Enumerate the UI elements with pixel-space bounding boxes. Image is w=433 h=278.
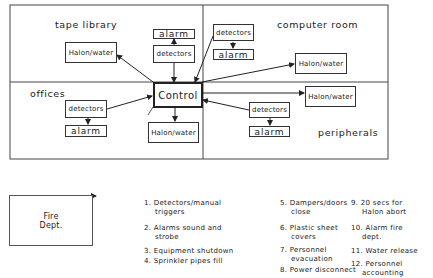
fire-dept-line1: Fire <box>43 212 58 221</box>
legend-item-4: 4. Sprinkler pipes fill <box>144 257 223 266</box>
computer-room-halon-water-box: Halon/water <box>295 53 347 74</box>
zone-label-offices: offices <box>30 88 65 99</box>
control-halon-water-box: Halon/water <box>148 122 199 143</box>
legend-item-1: 1. Detectors/manualtriggers <box>144 199 221 217</box>
offices-alarm-box: alarm <box>65 125 107 137</box>
fire-dept-line2: Dept. <box>40 221 63 230</box>
legend-item-8: 8. Power disconnect <box>280 266 356 275</box>
zone-label-peripherals: peripherals <box>318 127 378 138</box>
center-alarm-box: alarm <box>153 29 195 39</box>
legend-item-12: 12. Personnelaccounting <box>351 260 404 278</box>
peripherals-alarm-box: alarm <box>249 126 290 137</box>
legend-item-7: 7. Personnelevacuation <box>280 246 333 264</box>
tape-library-halon-water-box: Halon/water <box>65 42 117 63</box>
peripherals-detectors-box: detectors <box>249 102 290 118</box>
fire-dept-box: Fire Dept. <box>9 195 93 246</box>
legend-item-10: 10. Alarm firedept. <box>351 224 403 242</box>
peripherals-halon-water-box: Halon/water <box>305 86 356 107</box>
zone-label-tape-library: tape library <box>55 19 117 30</box>
legend-item-5: 5. Dampers/doorsclose <box>280 199 347 217</box>
center-detectors-box: detectors <box>153 45 195 63</box>
legend-item-6: 6. Plastic sheetcovers <box>280 224 338 242</box>
legend-item-11: 11. Water release <box>351 247 418 256</box>
legend-item-2: 2. Alarms sound andstrobe <box>144 224 222 242</box>
computer-room-alarm-box: alarm <box>213 49 254 60</box>
computer-room-detectors-box: detectors <box>213 24 254 41</box>
legend-item-9: 9. 20 secs forHalon abort <box>351 199 406 217</box>
offices-detectors-box: detectors <box>65 100 107 118</box>
legend-item-3: 3. Equipment shutdown <box>144 247 234 256</box>
zone-label-computer-room: computer room <box>277 19 358 30</box>
control-box: Control <box>153 82 203 108</box>
